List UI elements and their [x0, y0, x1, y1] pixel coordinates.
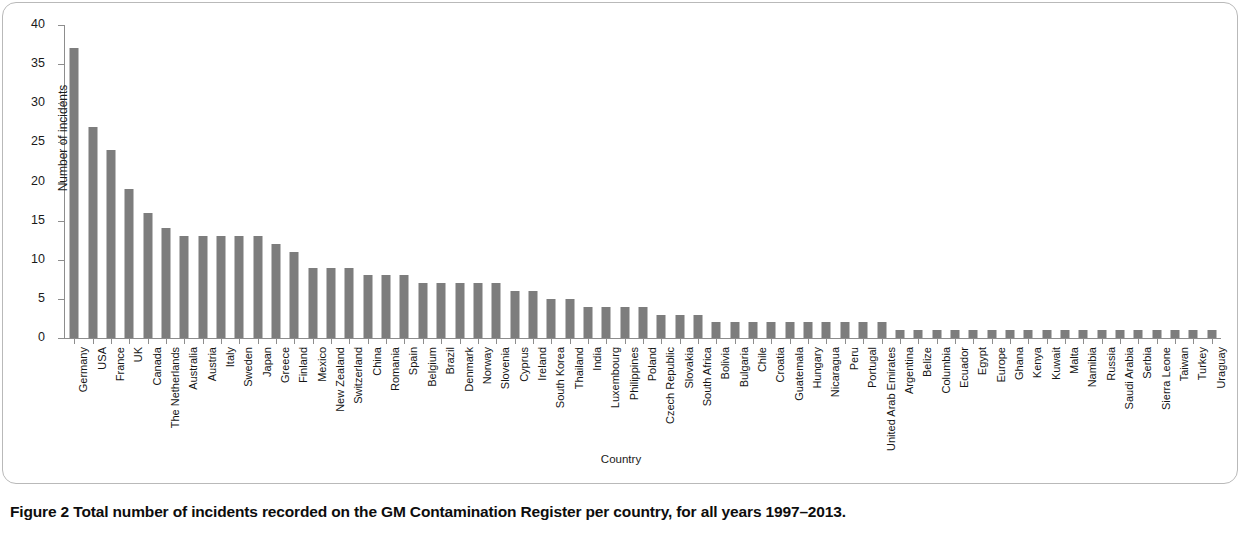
bar — [198, 236, 207, 338]
bar — [1042, 330, 1051, 338]
bar — [1097, 330, 1106, 338]
figure-panel: Number of incidents 0510152025303540 Ger… — [2, 2, 1238, 484]
x-tick — [276, 339, 277, 344]
bar-slot — [377, 25, 395, 338]
bar-slot — [304, 25, 322, 338]
y-tick-label: 35 — [5, 57, 45, 70]
x-tick-label: Austria — [207, 347, 218, 381]
x-tick-label: Egypt — [977, 347, 988, 375]
x-tick — [882, 339, 883, 344]
x-tick — [111, 339, 112, 344]
bar-slot — [872, 25, 890, 338]
bar-slot — [1019, 25, 1037, 338]
bar — [712, 322, 721, 338]
bar-slot — [927, 25, 945, 338]
x-tick — [1065, 339, 1066, 344]
x-tick-label: Uraguay — [1216, 347, 1227, 389]
x-tick-label: Namibia — [1087, 347, 1098, 387]
bar — [1189, 330, 1198, 338]
bar-slot — [450, 25, 468, 338]
bar-slot — [744, 25, 762, 338]
bar — [730, 322, 739, 338]
bar — [70, 48, 79, 338]
bar — [382, 275, 391, 338]
x-tick — [460, 339, 461, 344]
bar-slot — [102, 25, 120, 338]
bar-slot — [542, 25, 560, 338]
bar — [1079, 330, 1088, 338]
x-tick-label: UK — [133, 347, 144, 362]
x-tick — [331, 339, 332, 344]
x-tick — [441, 339, 442, 344]
x-tick — [239, 339, 240, 344]
x-tick — [184, 339, 185, 344]
bar — [180, 236, 189, 338]
y-tick-label: 40 — [5, 18, 45, 31]
x-tick-label: Nicaragua — [830, 347, 841, 397]
bar — [749, 322, 758, 338]
bar — [400, 275, 409, 338]
x-tick-label: Turkey — [1197, 347, 1208, 380]
bar — [216, 236, 225, 338]
bar-slot — [1148, 25, 1166, 338]
x-tick — [808, 339, 809, 344]
x-tick — [698, 339, 699, 344]
x-tick — [74, 339, 75, 344]
x-tick — [1083, 339, 1084, 344]
bar-slot — [359, 25, 377, 338]
bar — [1207, 330, 1216, 338]
x-tick-label: Bulgaria — [739, 347, 750, 387]
x-tick — [716, 339, 717, 344]
bar-slot — [524, 25, 542, 338]
bar-slot — [1111, 25, 1129, 338]
x-tick — [625, 339, 626, 344]
y-tick — [58, 338, 64, 339]
x-tick-label: Kenya — [1032, 347, 1043, 378]
bar — [308, 268, 317, 338]
bar-slot — [946, 25, 964, 338]
x-tick-label: Guatemala — [794, 347, 805, 401]
x-tick — [404, 339, 405, 344]
x-tick — [753, 339, 754, 344]
bar — [363, 275, 372, 338]
x-tick-label: Romania — [390, 347, 401, 391]
x-tick — [258, 339, 259, 344]
y-tick — [58, 260, 64, 261]
x-tick — [845, 339, 846, 344]
x-tick — [368, 339, 369, 344]
bar-slot — [762, 25, 780, 338]
x-tick-label: Chile — [757, 347, 768, 372]
bar-slot — [836, 25, 854, 338]
bar — [638, 307, 647, 338]
x-tick-label: Sweden — [243, 347, 254, 387]
bar-slot — [175, 25, 193, 338]
x-tick — [790, 339, 791, 344]
bar — [675, 315, 684, 338]
bar — [950, 330, 959, 338]
bar — [327, 268, 336, 338]
x-tick-label: India — [592, 347, 603, 371]
x-tick-label: Belize — [922, 347, 933, 377]
y-tick — [58, 182, 64, 183]
bar-slot — [285, 25, 303, 338]
bar — [602, 307, 611, 338]
bar-slot — [469, 25, 487, 338]
bar — [877, 322, 886, 338]
bar — [345, 268, 354, 338]
bar — [418, 283, 427, 338]
x-tick — [294, 339, 295, 344]
bar — [272, 244, 281, 338]
x-tick — [515, 339, 516, 344]
x-tick — [148, 339, 149, 344]
bar-slot — [817, 25, 835, 338]
x-tick-label: Peru — [849, 347, 860, 370]
bar-slot — [230, 25, 248, 338]
x-tick-label: Mexico — [317, 347, 328, 382]
x-tick-label: New Zealand — [335, 347, 346, 412]
x-tick-label: Russia — [1106, 347, 1117, 381]
bar — [1024, 330, 1033, 338]
x-tick — [606, 339, 607, 344]
x-tick — [1157, 339, 1158, 344]
bar-slot — [138, 25, 156, 338]
x-tick — [1010, 339, 1011, 344]
